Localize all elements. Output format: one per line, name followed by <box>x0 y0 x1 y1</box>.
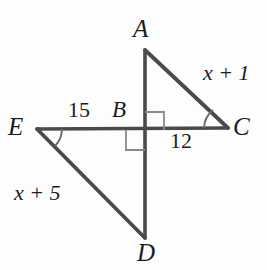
geometry-figure: A B C D E x + 1 x + 5 15 12 <box>0 0 267 270</box>
measure-label-AC: x + 1 <box>203 62 250 84</box>
vertex-label-D: D <box>137 240 155 265</box>
vertex-label-B: B <box>112 98 126 121</box>
angle-arc-E <box>55 129 62 146</box>
measure-label-EB: 15 <box>68 99 90 121</box>
segment-EC <box>37 128 228 129</box>
vertex-label-E: E <box>8 114 23 139</box>
measure-label-BC: 12 <box>170 130 192 152</box>
vertex-label-A: A <box>133 16 148 41</box>
vertex-label-C: C <box>233 114 250 139</box>
measure-label-ED: x + 5 <box>14 182 61 204</box>
right-angle-mark-EBD <box>126 130 145 150</box>
